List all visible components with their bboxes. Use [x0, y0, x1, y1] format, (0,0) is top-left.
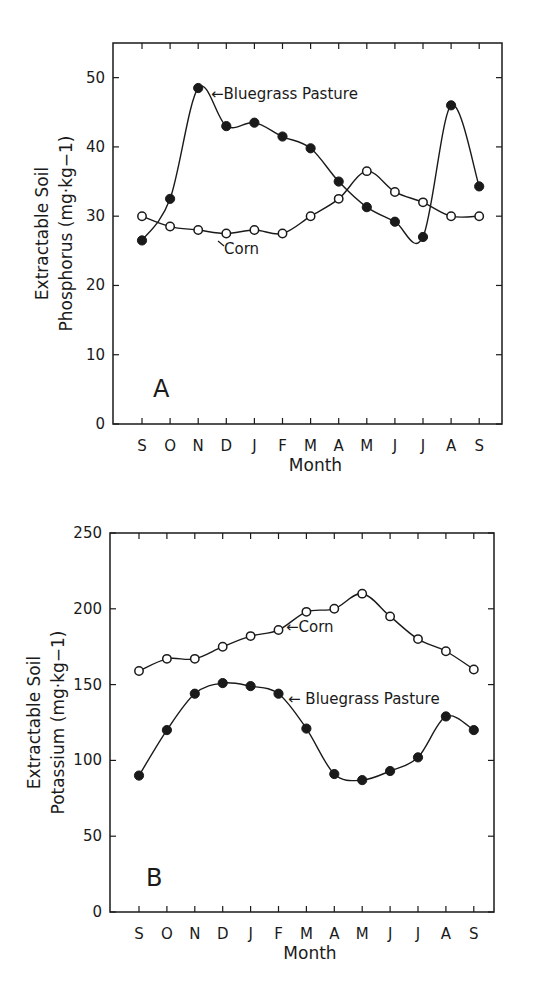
- x-tick-label: D: [221, 437, 233, 455]
- marker-filled-circle: [441, 712, 450, 721]
- marker-filled-circle: [362, 203, 371, 212]
- marker-open-circle: [414, 635, 422, 643]
- marker-open-circle: [391, 188, 399, 196]
- x-tick-label: J: [387, 925, 392, 943]
- marker-open-circle: [475, 212, 483, 220]
- y-tick-label: 0: [95, 415, 105, 433]
- marker-filled-circle: [306, 144, 315, 153]
- x-tick-label: F: [278, 437, 287, 455]
- x-tick-label: M: [360, 437, 373, 455]
- y-tick-label: 40: [86, 138, 105, 156]
- y-tick-label: 0: [92, 903, 102, 921]
- marker-open-circle: [335, 195, 343, 203]
- y-tick-label: 10: [86, 346, 105, 364]
- annotation-corn: ←Corn: [286, 618, 334, 636]
- y-tick-label: 250: [73, 524, 102, 542]
- marker-open-circle: [330, 605, 338, 613]
- x-axis-title: Month: [283, 943, 336, 963]
- x-tick-label: S: [134, 925, 144, 943]
- marker-filled-circle: [246, 682, 255, 691]
- y-axis-title-line1: Extractable Soil: [32, 167, 52, 300]
- marker-filled-circle: [447, 101, 456, 110]
- marker-open-circle: [306, 212, 314, 220]
- y-axis-title-line2: Phosphorus (mg·kg−1): [56, 136, 76, 332]
- x-axis-ticks: SONDJFMAMJJAS: [137, 43, 484, 455]
- x-tick-label: A: [446, 437, 457, 455]
- x-tick-label: O: [164, 437, 176, 455]
- x-tick-label: J: [392, 437, 397, 455]
- marker-open-circle: [419, 198, 427, 206]
- y-tick-label: 200: [73, 600, 102, 618]
- y-axis-title-line1: Extractable Soil: [24, 656, 44, 789]
- marker-filled-circle: [166, 194, 175, 203]
- marker-open-circle: [447, 212, 455, 220]
- marker-open-circle: [274, 626, 282, 634]
- x-tick-label: M: [304, 437, 317, 455]
- marker-open-circle: [194, 226, 202, 234]
- marker-open-circle: [386, 612, 394, 620]
- marker-filled-circle: [194, 83, 203, 92]
- x-tick-label: S: [469, 925, 479, 943]
- series-line: [142, 171, 479, 234]
- panel-b-potassium-chart: 050100150200250 SONDJFMAMJJAS B Month Ex…: [24, 524, 494, 963]
- marker-filled-circle: [358, 776, 367, 785]
- x-tick-label: A: [334, 437, 345, 455]
- marker-open-circle: [219, 643, 227, 651]
- y-tick-label: 50: [83, 827, 102, 845]
- y-axis-ticks: 01020304050: [86, 69, 502, 433]
- marker-filled-circle: [278, 132, 287, 141]
- marker-filled-circle: [469, 725, 478, 734]
- data-series: [137, 83, 483, 245]
- marker-open-circle: [250, 226, 258, 234]
- marker-filled-circle: [334, 177, 343, 186]
- x-axis-ticks: SONDJFMAMJJAS: [134, 533, 478, 943]
- panel-letter: A: [153, 375, 170, 403]
- marker-open-circle: [135, 667, 143, 675]
- marker-open-circle: [358, 589, 366, 597]
- x-tick-label: S: [474, 437, 484, 455]
- marker-filled-circle: [418, 232, 427, 241]
- x-tick-label: A: [329, 925, 340, 943]
- marker-open-circle: [278, 229, 286, 237]
- x-tick-label: S: [137, 437, 147, 455]
- y-tick-label: 20: [86, 276, 105, 294]
- x-tick-label: N: [189, 925, 200, 943]
- x-tick-label: F: [274, 925, 283, 943]
- marker-open-circle: [363, 167, 371, 175]
- marker-open-circle: [246, 632, 254, 640]
- marker-filled-circle: [413, 753, 422, 762]
- marker-open-circle: [166, 222, 174, 230]
- marker-filled-circle: [137, 236, 146, 245]
- x-tick-label: J: [420, 437, 425, 455]
- x-tick-label: A: [441, 925, 452, 943]
- marker-open-circle: [191, 655, 199, 663]
- y-axis-title-line2: Potassium (mg·kg−1): [48, 630, 68, 814]
- panel-letter: B: [146, 864, 162, 892]
- marker-filled-circle: [274, 689, 283, 698]
- marker-filled-circle: [222, 122, 231, 131]
- marker-open-circle: [442, 647, 450, 655]
- marker-open-circle: [163, 655, 171, 663]
- x-axis-title: Month: [289, 455, 342, 475]
- marker-open-circle: [302, 608, 310, 616]
- marker-filled-circle: [330, 769, 339, 778]
- x-tick-label: D: [217, 925, 229, 943]
- y-tick-label: 100: [73, 751, 102, 769]
- x-tick-label: J: [415, 925, 420, 943]
- annotation-bluegrass-pasture: ←Bluegrass Pasture: [211, 85, 358, 103]
- marker-filled-circle: [162, 725, 171, 734]
- annotation-bluegrass-pasture: ← Bluegrass Pasture: [288, 690, 440, 708]
- y-axis-ticks: 050100150200250: [73, 524, 494, 921]
- x-tick-label: J: [251, 437, 256, 455]
- marker-filled-circle: [134, 771, 143, 780]
- x-tick-label: M: [300, 925, 313, 943]
- marker-open-circle: [138, 212, 146, 220]
- y-tick-label: 30: [86, 207, 105, 225]
- marker-open-circle: [222, 229, 230, 237]
- marker-filled-circle: [302, 724, 311, 733]
- y-tick-label: 50: [86, 69, 105, 87]
- figure-canvas: 01020304050 SONDJFMAMJJAS A Month Extrac…: [0, 0, 535, 1005]
- x-tick-label: N: [193, 437, 204, 455]
- marker-filled-circle: [386, 766, 395, 775]
- panel-a-phosphorus-chart: 01020304050 SONDJFMAMJJAS A Month Extrac…: [32, 43, 502, 475]
